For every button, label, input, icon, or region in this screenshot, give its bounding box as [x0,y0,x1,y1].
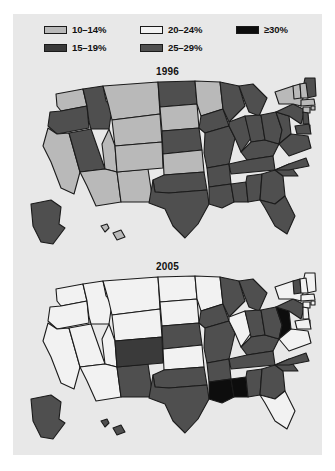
legend-item-25-29: 25–29% [140,41,202,55]
map-block-1996: 1996 [13,64,322,254]
legend-item-30plus: ≥30% [236,23,288,37]
legend-column-2: 20–24% 25–29% [140,23,202,59]
legend-label-10-14: 10–14% [72,25,106,35]
legend-swatch-25-29 [140,44,163,52]
legend-item-10-14: 10–14% [44,23,106,37]
legend-item-20-24: 20–24% [140,23,202,37]
legend-swatch-15-19 [44,44,67,52]
legend-label-20-24: 20–24% [168,25,202,35]
us-choropleth-1996 [17,76,318,252]
prevalence-legend: 10–14% 15–19% 20–24% 25–29% ≥30% [44,23,306,59]
legend-column-1: 10–14% 15–19% [44,23,106,59]
legend-label-15-19: 15–19% [72,43,106,53]
legend-label-30plus: ≥30% [264,25,288,35]
legend-swatch-30plus [236,26,259,34]
legend-swatch-20-24 [140,26,163,34]
us-choropleth-2005 [17,271,318,447]
legend-label-25-29: 25–29% [168,43,202,53]
map-block-2005: 2005 [13,259,322,451]
legend-swatch-10-14 [44,26,67,34]
legend-item-15-19: 15–19% [44,41,106,55]
legend-column-3: ≥30% [236,23,288,41]
figure-panel: 10–14% 15–19% 20–24% 25–29% ≥30% [13,14,322,455]
